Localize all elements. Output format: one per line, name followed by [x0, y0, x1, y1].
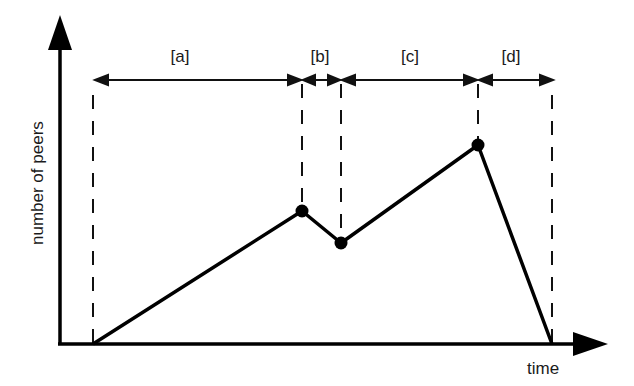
y-axis-label: number of peers [28, 121, 47, 245]
phase-label-c: [c] [401, 47, 419, 66]
phase-label-a: [a] [171, 47, 190, 66]
arrow-right-icon [464, 75, 477, 85]
arrow-left-icon [95, 75, 108, 85]
arrow-right-icon [288, 75, 301, 85]
arrow-right-icon [328, 75, 340, 85]
arrow-left-icon [479, 75, 492, 85]
x-axis-arrow-icon [573, 332, 608, 356]
data-point-marker [335, 237, 348, 250]
arrow-left-icon [342, 75, 355, 85]
phase-arrows [95, 75, 553, 85]
x-axis-label: time [527, 359, 559, 378]
phase-label-d: [d] [502, 47, 521, 66]
peer-count-diagram: [a] [b] [c] [d] time number of peers [0, 0, 634, 386]
axes [48, 15, 608, 356]
y-axis-arrow-icon [48, 15, 72, 50]
arrow-left-icon [303, 75, 315, 85]
arrow-right-icon [540, 75, 553, 85]
peer-count-line [93, 145, 552, 344]
data-point-marker [296, 205, 309, 218]
data-point-marker [472, 139, 485, 152]
phase-boundaries [93, 84, 552, 344]
phase-label-b: [b] [311, 47, 330, 66]
